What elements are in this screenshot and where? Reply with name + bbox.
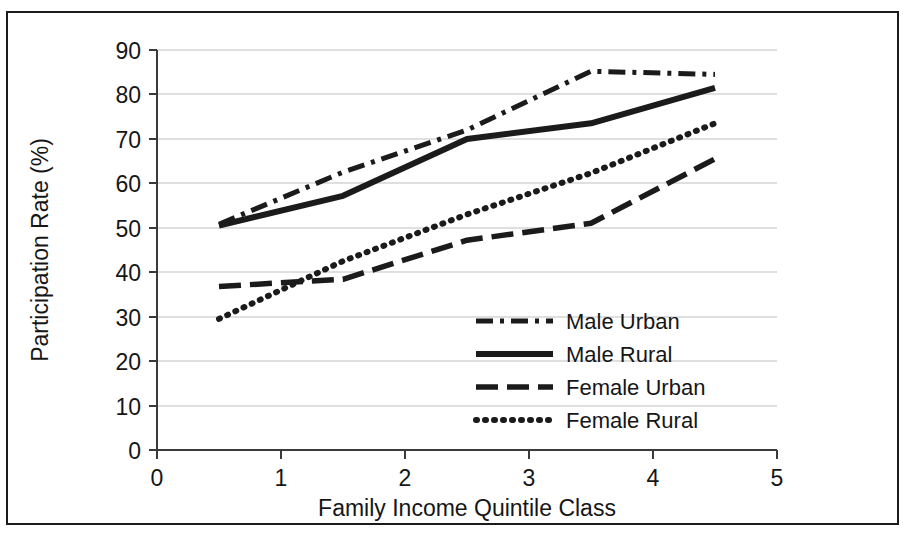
- y-tick-label-70: 70: [115, 127, 141, 153]
- y-tick-label-10: 10: [115, 394, 141, 420]
- y-axis-ticks: [149, 50, 157, 450]
- y-tick-label-30: 30: [115, 305, 141, 331]
- y-tick-label-60: 60: [115, 171, 141, 197]
- data-series-layer: [219, 71, 715, 319]
- line-chart: 90 80 70 60 50 40 30 20 10 0 0 1 2 3 4 5…: [8, 13, 897, 523]
- x-tick-label-3: 3: [523, 465, 536, 491]
- x-tick-label-5: 5: [771, 465, 784, 491]
- y-tick-label-0: 0: [128, 438, 141, 464]
- chart-legend: Male UrbanMale RuralFemale UrbanFemale R…: [476, 309, 705, 433]
- x-tick-label-0: 0: [151, 465, 164, 491]
- x-tick-label-2: 2: [399, 465, 412, 491]
- x-axis-title: Family Income Quintile Class: [318, 495, 616, 521]
- y-axis-title: Participation Rate (%): [27, 138, 53, 362]
- series-line-female-rural: [219, 123, 715, 319]
- y-tick-label-90: 90: [115, 38, 141, 64]
- y-tick-label-50: 50: [115, 216, 141, 242]
- legend-label-male-rural: Male Rural: [566, 342, 672, 367]
- gridlines: [157, 50, 777, 406]
- y-tick-label-40: 40: [115, 260, 141, 286]
- legend-label-female-rural: Female Rural: [566, 408, 698, 433]
- series-line-female-urban: [219, 159, 715, 287]
- legend-label-male-urban: Male Urban: [566, 309, 680, 334]
- figure-page: 90 80 70 60 50 40 30 20 10 0 0 1 2 3 4 5…: [0, 0, 908, 538]
- y-tick-label-20: 20: [115, 349, 141, 375]
- y-tick-label-80: 80: [115, 82, 141, 108]
- series-line-male-rural: [219, 88, 715, 226]
- x-tick-label-1: 1: [275, 465, 288, 491]
- figure-border: 90 80 70 60 50 40 30 20 10 0 0 1 2 3 4 5…: [6, 11, 899, 525]
- legend-label-female-urban: Female Urban: [566, 375, 705, 400]
- x-tick-label-4: 4: [647, 465, 660, 491]
- x-axis-ticks: [157, 450, 777, 459]
